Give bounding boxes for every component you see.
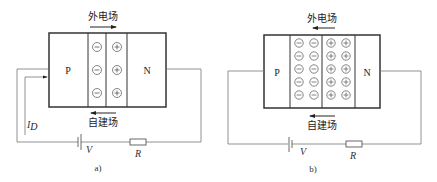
battery-label-b: V xyxy=(300,146,308,157)
built-in-field-label-b: 自建场 xyxy=(307,119,337,131)
resistor-label-a: R xyxy=(134,148,141,159)
battery-label-a: V xyxy=(86,144,94,155)
p-region-label-b: P xyxy=(274,67,280,78)
wire-right-a xyxy=(146,69,201,142)
resistor-label-b: R xyxy=(349,150,356,161)
external-field-label-b: 外电场 xyxy=(307,12,337,24)
n-region-label-b: N xyxy=(363,67,370,78)
panel-a-forward-bias: 外电场 P N 自 xyxy=(17,10,201,173)
current-label: ID xyxy=(26,119,38,132)
battery-icon-a xyxy=(78,134,81,150)
negative-ions-a xyxy=(93,43,102,98)
built-in-field-label-a: 自建场 xyxy=(88,116,118,128)
pn-junction-figure: 外电场 P N 自 xyxy=(0,0,437,182)
caption-a: a) xyxy=(95,163,102,173)
n-region-label-a: N xyxy=(143,65,150,76)
p-region-label-a: P xyxy=(65,65,71,76)
negative-ions-b xyxy=(295,39,318,99)
resistor-icon-b xyxy=(346,141,362,147)
external-field-label-a: 外电场 xyxy=(88,10,118,22)
positive-ions-b xyxy=(327,39,350,99)
resistor-icon-a xyxy=(130,139,146,145)
battery-icon-b xyxy=(289,137,292,152)
caption-b: b) xyxy=(309,164,317,174)
wire-left-a xyxy=(17,69,78,142)
panel-b-reverse-bias: 外电场 P N xyxy=(228,12,421,174)
positive-ions-a xyxy=(113,43,122,98)
